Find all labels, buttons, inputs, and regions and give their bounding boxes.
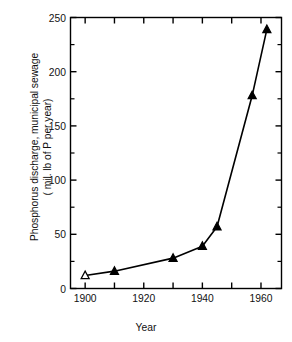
chart-figure: Phosphorus discharge, municipal sewage (… bbox=[0, 0, 292, 342]
data-series-line bbox=[85, 29, 267, 275]
plot-area bbox=[0, 0, 292, 342]
data-point-markers bbox=[81, 25, 271, 279]
data-point-marker bbox=[263, 25, 271, 33]
series-line bbox=[85, 29, 267, 275]
plot-frame bbox=[71, 18, 282, 289]
data-point-marker bbox=[213, 222, 221, 230]
axis-ticks bbox=[71, 18, 282, 289]
data-point-marker bbox=[248, 91, 256, 99]
plot-border bbox=[71, 18, 282, 289]
